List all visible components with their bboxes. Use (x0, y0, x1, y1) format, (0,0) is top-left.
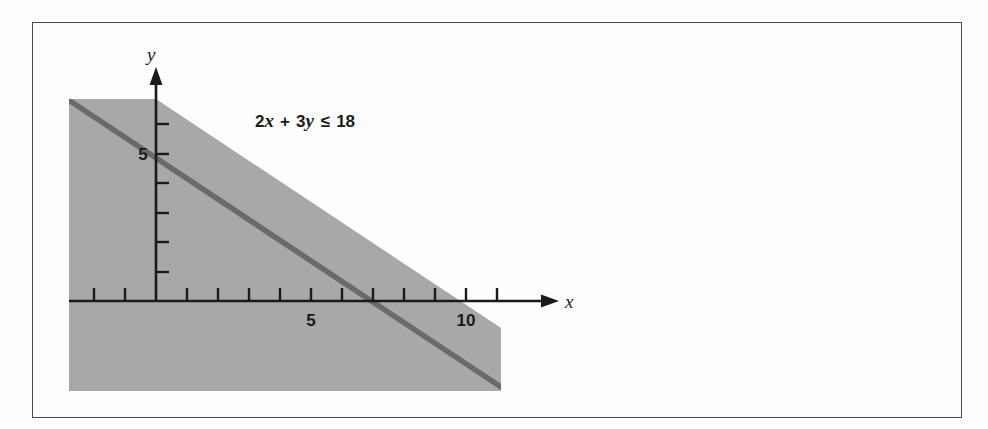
figure-root: 5 10 5 x y 2x+3y≤18 (0, 0, 988, 429)
x-tick-label-5: 5 (306, 311, 315, 330)
y-axis-label: y (145, 44, 156, 65)
inequality-var-x: x (263, 110, 274, 131)
figure-frame: 5 10 5 x y 2x+3y≤18 (32, 22, 962, 418)
inequality-var-y: y (303, 110, 314, 131)
x-axis-label: x (564, 291, 574, 312)
inequality-coef-b: 3 (296, 112, 305, 131)
inequality-plus: + (280, 112, 290, 131)
inequality-graph: 5 10 5 x y 2x+3y≤18 (33, 23, 961, 416)
x-tick-label-10: 10 (457, 311, 476, 330)
inequality-coef-a: 2 (255, 112, 264, 131)
inequality-annotation: 2x+3y≤18 (255, 110, 355, 131)
inequality-relation: ≤ (321, 112, 330, 131)
x-axis-arrow-icon (541, 295, 559, 308)
inequality-expression: 2x+3y≤18 (255, 110, 355, 131)
y-axis-arrow-icon (150, 67, 163, 85)
inequality-constant: 18 (336, 112, 355, 131)
y-tick-label-5: 5 (138, 145, 147, 164)
